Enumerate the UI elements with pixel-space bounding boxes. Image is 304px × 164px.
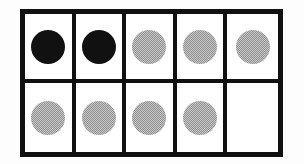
gray-counter-icon — [31, 101, 65, 135]
ten-frame-grid — [20, 9, 283, 157]
frame-cell-r2-c3[interactable] — [126, 83, 177, 152]
frame-cell-r1-c3[interactable] — [126, 14, 177, 83]
frame-cell-r2-c5[interactable] — [227, 83, 278, 152]
frame-cell-r2-c2[interactable] — [76, 83, 127, 152]
frame-cell-r1-c2[interactable] — [76, 14, 127, 83]
frame-cell-r1-c4[interactable] — [177, 14, 228, 83]
figure-canvas — [0, 0, 304, 164]
frame-cell-r2-c4[interactable] — [177, 83, 228, 152]
frame-cell-r1-c1[interactable] — [25, 14, 76, 83]
gray-counter-icon — [236, 30, 270, 64]
frame-cell-r2-c1[interactable] — [25, 83, 76, 152]
gray-counter-icon — [132, 30, 166, 64]
gray-counter-icon — [183, 101, 217, 135]
gray-counter-icon — [183, 30, 217, 64]
black-counter-icon — [31, 30, 65, 64]
gray-counter-icon — [82, 101, 116, 135]
gray-counter-icon — [132, 101, 166, 135]
frame-cell-r1-c5[interactable] — [227, 14, 278, 83]
black-counter-icon — [82, 30, 116, 64]
